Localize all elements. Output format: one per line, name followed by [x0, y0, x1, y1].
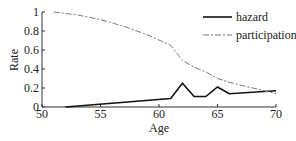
- x-tick-label: 55: [95, 107, 107, 121]
- y-tick-label: 0.4: [24, 62, 39, 76]
- series-lines: [54, 12, 276, 107]
- series-hazard: [65, 83, 276, 107]
- y-tick-label: 0.6: [24, 43, 39, 57]
- legend-label-participation: participation: [236, 28, 296, 42]
- x-tick-label: 60: [153, 107, 165, 121]
- line-chart: 5055606570 00.20.40.60.81 Age Rate hazar…: [0, 0, 296, 141]
- x-tick-label: 70: [270, 107, 282, 121]
- y-tick-label: 1: [33, 5, 39, 19]
- x-axis-label: Age: [149, 121, 169, 135]
- y-tick-label: 0.2: [24, 81, 39, 95]
- series-participation: [54, 12, 276, 94]
- y-tick-label: 0.8: [24, 24, 39, 38]
- y-axis-label: Rate: [7, 49, 21, 71]
- x-tick-label: 65: [212, 107, 224, 121]
- legend: hazard participation: [203, 10, 296, 42]
- legend-label-hazard: hazard: [236, 10, 268, 24]
- y-tick-label: 0: [33, 100, 39, 114]
